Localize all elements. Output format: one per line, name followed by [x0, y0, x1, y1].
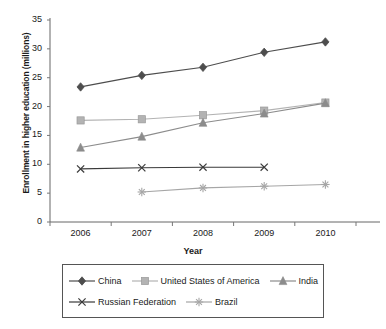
series-line [142, 185, 326, 193]
legend-marker-x-icon [69, 296, 95, 308]
marker-diamond [138, 71, 145, 79]
y-tick-label: 20 [20, 101, 42, 111]
marker-diamond [261, 48, 268, 56]
y-tick-label: 35 [20, 14, 42, 24]
marker-diamond [322, 38, 329, 46]
legend-item-brazil[interactable]: Brazil [186, 296, 238, 308]
series-russian-federation [77, 164, 268, 173]
legend-marker-diamond-icon [69, 275, 95, 287]
y-tick-label: 10 [20, 158, 42, 168]
legend-item-china[interactable]: China [69, 275, 122, 287]
legend-label: United States of America [161, 276, 260, 286]
y-tick-label: 25 [20, 72, 42, 82]
marker-square [77, 117, 84, 124]
chart-legend: ChinaUnited States of AmericaIndiaRussia… [62, 264, 324, 318]
legend-item-russian-federation[interactable]: Russian Federation [69, 296, 176, 308]
marker-square [138, 116, 145, 123]
y-tick-label: 0 [20, 216, 42, 226]
legend-row: Russian FederationBrazil [69, 291, 317, 312]
legend-marker-triangle-icon [270, 275, 296, 287]
marker-diamond [78, 276, 85, 284]
x-axis-label: Year [0, 246, 386, 256]
legend-item-india[interactable]: India [270, 275, 319, 287]
y-tick-label: 5 [20, 187, 42, 197]
series-line [81, 167, 265, 169]
line-chart: Enrollment in higher education (millions… [0, 0, 386, 329]
x-tick-label: 2007 [120, 228, 164, 238]
y-tick-label: 15 [20, 129, 42, 139]
legend-item-united-states-of-america[interactable]: United States of America [132, 275, 260, 287]
y-tick-label: 30 [20, 43, 42, 53]
marker-diamond [77, 83, 84, 91]
x-tick-label: 2008 [181, 228, 225, 238]
series-china [77, 38, 329, 91]
legend-marker-star-icon [186, 296, 212, 308]
x-tick-label: 2009 [242, 228, 286, 238]
legend-row: ChinaUnited States of AmericaIndia [69, 270, 317, 291]
legend-label: China [98, 276, 122, 286]
legend-label: Russian Federation [98, 297, 176, 307]
x-tick-label: 2006 [59, 228, 103, 238]
legend-marker-square-icon [132, 275, 158, 287]
legend-label: Brazil [215, 297, 238, 307]
x-tick-label: 2010 [303, 228, 347, 238]
series-brazil [138, 180, 330, 196]
marker-diamond [199, 63, 206, 71]
marker-square [141, 277, 148, 284]
legend-label: India [299, 276, 319, 286]
